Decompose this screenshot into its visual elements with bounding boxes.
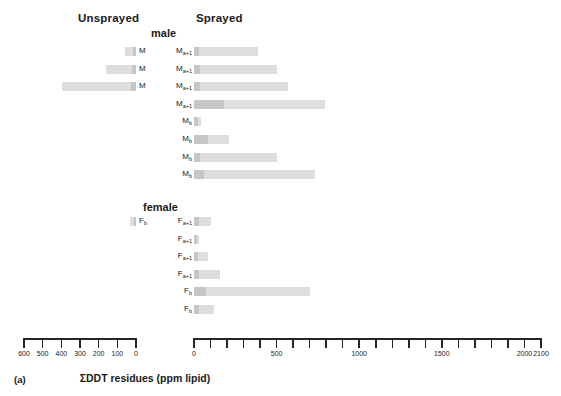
header-sprayed: Sprayed xyxy=(196,12,243,24)
bar-row: Fa+1 xyxy=(0,250,561,263)
sprayed-bar-label: Fa+1 xyxy=(164,269,192,279)
sprayed-bar-leading-segment xyxy=(194,170,204,179)
axis-tick xyxy=(276,338,278,348)
unsprayed-bar-label: Fb xyxy=(139,216,147,226)
sprayed-bar xyxy=(194,287,310,296)
axis-tick xyxy=(358,338,360,348)
unsprayed-bar-label: M xyxy=(139,64,146,73)
axis-tick xyxy=(117,338,119,348)
group-title-female: female xyxy=(143,201,178,213)
axis-tick xyxy=(23,338,25,348)
sprayed-bar-leading-segment xyxy=(194,82,200,91)
sprayed-bar xyxy=(194,100,325,109)
axis-tick xyxy=(309,338,311,348)
axis-tick xyxy=(135,338,137,348)
sprayed-bar xyxy=(194,235,199,244)
bar-row: Mb xyxy=(0,151,561,164)
sprayed-bar xyxy=(194,82,288,91)
bar-row: Fb xyxy=(0,285,561,298)
axis-tick xyxy=(325,338,327,348)
unsprayed-bar-leading-segment xyxy=(134,217,136,226)
sprayed-bar-leading-segment xyxy=(194,252,198,261)
axis-tick-label: 2000 xyxy=(517,350,533,357)
axis-line-sprayed xyxy=(194,338,541,340)
header-unsprayed: Unsprayed xyxy=(78,12,139,24)
bar-row: Ma+1M xyxy=(0,63,561,76)
sprayed-bar-leading-segment xyxy=(194,117,198,126)
sprayed-bar-label: Fa+1 xyxy=(164,216,192,226)
sprayed-bar-label: Mb xyxy=(164,134,192,144)
sprayed-bar-leading-segment xyxy=(194,287,206,296)
bar-row: Fa+1 xyxy=(0,233,561,246)
sprayed-bar xyxy=(194,47,258,56)
axis-tick xyxy=(292,338,294,348)
axis-tick xyxy=(540,338,542,348)
sprayed-bar xyxy=(194,153,277,162)
axis-tick xyxy=(441,338,443,348)
axis-tick-label: 0 xyxy=(192,350,196,357)
sprayed-bar-label: Ma+1 xyxy=(164,46,192,56)
sprayed-bar-label: Fa+1 xyxy=(164,251,192,261)
sprayed-bar-label: Ma+1 xyxy=(164,64,192,74)
sprayed-bar-label: Mb xyxy=(164,152,192,162)
sprayed-bar-label: Mb xyxy=(164,116,192,126)
bar-row: Ma+1M xyxy=(0,45,561,58)
axis-tick-label: 300 xyxy=(74,350,86,357)
axis-tick-label: 0 xyxy=(134,350,138,357)
axis-tick xyxy=(458,338,460,348)
unsprayed-bar-label: M xyxy=(139,81,146,90)
sprayed-bar xyxy=(194,252,208,261)
sprayed-bar-leading-segment xyxy=(194,135,208,144)
sprayed-bar-label: Fa+1 xyxy=(164,234,192,244)
bar-row: Mb xyxy=(0,133,561,146)
bar-row: Mb xyxy=(0,115,561,128)
sprayed-bar-leading-segment xyxy=(194,153,200,162)
axis-tick xyxy=(79,338,81,348)
bar-row: Fb xyxy=(0,303,561,316)
sprayed-bar-leading-segment xyxy=(194,47,199,56)
unsprayed-bar xyxy=(125,47,136,56)
sprayed-bar-leading-segment xyxy=(194,305,199,314)
axis-title: ΣDDT residues (ppm lipid) xyxy=(0,372,290,384)
sprayed-bar xyxy=(194,270,220,279)
axis-tick xyxy=(98,338,100,348)
sprayed-bar xyxy=(194,217,211,226)
axis-tick-label: 1500 xyxy=(434,350,450,357)
unsprayed-bar xyxy=(130,217,136,226)
sprayed-bar xyxy=(194,170,315,179)
axis-tick xyxy=(507,338,509,348)
sprayed-bar-leading-segment xyxy=(194,217,199,226)
unsprayed-bar-leading-segment xyxy=(133,47,136,56)
bar-row: Mb xyxy=(0,168,561,181)
sprayed-bar xyxy=(194,135,229,144)
bar-row: Ma+1 xyxy=(0,98,561,111)
axis-tick xyxy=(408,338,410,348)
bar-row: Ma+1M xyxy=(0,80,561,93)
sprayed-bar-label: Ma+1 xyxy=(164,99,192,109)
axis-tick xyxy=(210,338,212,348)
axis-tick-label: 400 xyxy=(55,350,67,357)
sprayed-bar-leading-segment xyxy=(194,65,200,74)
sprayed-bar-leading-segment xyxy=(194,270,199,279)
axis-tick xyxy=(524,338,526,348)
unsprayed-bar xyxy=(106,65,136,74)
sprayed-bar xyxy=(194,117,201,126)
group-title-male: male xyxy=(151,27,176,39)
axis-tick xyxy=(42,338,44,348)
axis-tick-label: 1000 xyxy=(351,350,367,357)
sprayed-bar-label: Ma+1 xyxy=(164,81,192,91)
ddt-residues-chart: Unsprayed Sprayed male female Ma+1MMa+1M… xyxy=(0,0,561,396)
axis-tick xyxy=(61,338,63,348)
axis-tick-label: 500 xyxy=(271,350,283,357)
axis-tick xyxy=(375,338,377,348)
axis-tick-label: 600 xyxy=(18,350,30,357)
unsprayed-bar-label: M xyxy=(139,46,146,55)
bar-row: Fa+1Fb xyxy=(0,215,561,228)
axis-tick-label: 200 xyxy=(93,350,105,357)
sprayed-bar-label: Fb xyxy=(164,304,192,314)
axis-tick xyxy=(491,338,493,348)
axis-tick xyxy=(226,338,228,348)
sprayed-bar-label: Fb xyxy=(164,286,192,296)
axis-tick-label: 500 xyxy=(37,350,49,357)
axis-tick xyxy=(425,338,427,348)
